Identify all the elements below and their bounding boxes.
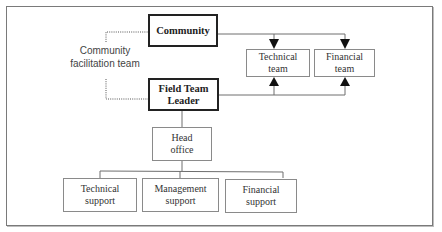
dotted-connector-community: [106, 32, 148, 42]
arrow-up-financial-team: [340, 77, 350, 86]
technical-team-label: Technical team: [259, 51, 298, 75]
head-office-to-supports-line: [100, 161, 283, 178]
financial-support-box: Financial support: [225, 179, 297, 213]
technical-support-box: Technical support: [63, 178, 137, 212]
community-facilitation-team-label: Community facilitation team: [64, 44, 146, 70]
arrow-down-financial-team: [340, 39, 350, 49]
community-label: Community: [156, 25, 210, 37]
head-office-box: Head office: [152, 127, 212, 161]
financial-team-box: Financial team: [314, 49, 375, 77]
technical-team-box: Technical team: [246, 49, 310, 77]
field-team-leader-box: Field Team Leader: [148, 78, 219, 111]
dotted-connector-field-leader: [106, 79, 148, 99]
management-support-box: Management support: [142, 178, 219, 212]
field-leader-to-teams-line: [218, 86, 345, 95]
head-office-label: Head office: [170, 132, 193, 156]
management-support-label: Management support: [154, 183, 206, 207]
financial-support-label: Financial support: [242, 184, 279, 208]
field-team-leader-label: Field Team Leader: [159, 83, 209, 107]
financial-team-label: Financial team: [326, 51, 363, 75]
technical-support-label: Technical support: [81, 183, 120, 207]
arrow-up-technical-team: [269, 77, 279, 86]
community-to-teams-line: [218, 34, 345, 40]
community-box: Community: [148, 14, 218, 47]
arrow-down-technical-team: [269, 39, 279, 49]
